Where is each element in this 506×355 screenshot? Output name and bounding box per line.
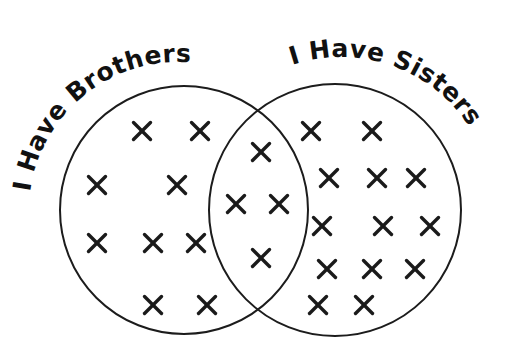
set-label-brothers-text: I Have Brothers <box>7 39 192 193</box>
circle-sisters <box>209 84 461 336</box>
x-mark-icon <box>169 177 186 194</box>
set-label-sisters-text: I Have Sisters <box>285 34 488 131</box>
x-mark-icon <box>89 235 106 252</box>
region-both <box>228 144 288 267</box>
region-brothers-only <box>89 123 216 314</box>
x-mark-icon <box>199 297 216 314</box>
x-mark-icon <box>422 218 439 235</box>
x-mark-icon <box>369 170 386 187</box>
x-mark-icon <box>364 123 381 140</box>
x-mark-icon <box>321 170 338 187</box>
x-mark-icon <box>228 196 245 213</box>
x-mark-icon <box>364 261 381 278</box>
x-mark-icon <box>192 123 209 140</box>
x-mark-icon <box>271 196 288 213</box>
x-mark-icon <box>314 218 331 235</box>
venn-diagram: I Have Brothers I Have Sisters <box>0 0 506 355</box>
x-mark-icon <box>134 123 151 140</box>
x-mark-icon <box>145 297 162 314</box>
x-mark-icon <box>89 177 106 194</box>
x-mark-icon <box>375 218 392 235</box>
x-mark-icon <box>319 261 336 278</box>
x-mark-icon <box>303 123 320 140</box>
region-sisters-only <box>303 123 439 314</box>
x-mark-icon <box>408 170 425 187</box>
x-mark-icon <box>145 235 162 252</box>
set-label-brothers: I Have Brothers <box>7 39 192 193</box>
x-mark-icon <box>188 235 205 252</box>
x-mark-icon <box>356 297 373 314</box>
x-mark-icon <box>407 261 424 278</box>
x-mark-icon <box>253 144 270 161</box>
x-mark-icon <box>253 250 270 267</box>
x-mark-icon <box>310 297 327 314</box>
set-label-sisters: I Have Sisters <box>285 34 488 131</box>
